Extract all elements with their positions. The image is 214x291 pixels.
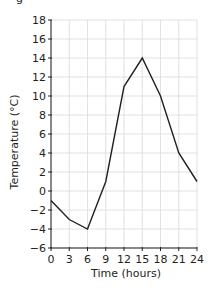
x-tick-label: 3 bbox=[66, 253, 73, 266]
y-tick-label: 14 bbox=[32, 52, 46, 65]
y-tick-label: 0 bbox=[39, 185, 46, 198]
x-tick-label: 12 bbox=[117, 253, 131, 266]
x-tick-label: 6 bbox=[84, 253, 91, 266]
y-tick-label: 2 bbox=[39, 166, 46, 179]
y-axis-ticks: −6−4−2024681012141618 bbox=[30, 14, 52, 255]
x-tick-label: 0 bbox=[48, 253, 55, 266]
x-tick-label: 18 bbox=[154, 253, 168, 266]
y-tick-label: −2 bbox=[30, 204, 46, 217]
x-tick-label: 9 bbox=[102, 253, 109, 266]
temperature-line-chart: −6−4−2024681012141618 03691215182124 Tim… bbox=[0, 0, 214, 291]
x-tick-label: 24 bbox=[190, 253, 204, 266]
y-tick-label: 8 bbox=[39, 109, 46, 122]
y-tick-label: 10 bbox=[32, 90, 46, 103]
x-tick-label: 15 bbox=[135, 253, 149, 266]
x-axis-ticks: 03691215182124 bbox=[48, 247, 205, 266]
y-tick-label: −6 bbox=[30, 242, 46, 255]
x-tick-label: 21 bbox=[172, 253, 186, 266]
x-axis-title: Time (hours) bbox=[90, 267, 161, 280]
grid-lines bbox=[51, 20, 197, 248]
y-tick-label: 16 bbox=[32, 33, 46, 46]
y-axis-title: Temperature (°C) bbox=[8, 95, 21, 191]
y-tick-label: −4 bbox=[30, 223, 46, 236]
y-tick-label: 4 bbox=[39, 147, 46, 160]
y-tick-label: 6 bbox=[39, 128, 46, 141]
y-tick-label: 12 bbox=[32, 71, 46, 84]
y-tick-label: 18 bbox=[32, 14, 46, 27]
